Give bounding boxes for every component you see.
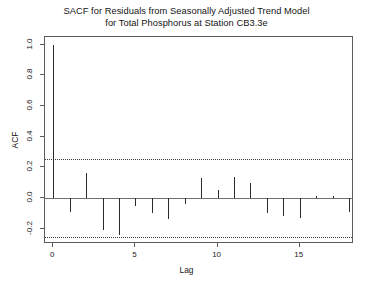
x-axis-tick [134,243,135,247]
y-axis-tick-label-text: 0.6 [21,99,39,110]
acf-spike [250,183,251,198]
x-axis-tick [299,243,300,247]
y-axis-tick-label-text: -0.2 [21,221,39,235]
plot-panel [44,36,353,243]
y-axis-tick-label-text: 0.2 [21,161,39,172]
chart-title-line-2: for Total Phosphorus at Station CB3.3e [0,18,373,30]
y-axis-tick-label-text: 0.0 [21,191,39,202]
y-axis-tick-label-text: 1.0 [21,38,39,49]
acf-spike [218,190,219,198]
y-axis-tick-label: 0.0 [23,188,37,206]
chart-title: SACF for Residuals from Seasonally Adjus… [0,6,373,29]
acf-spike [349,198,350,212]
x-axis-title: Lag [0,265,373,275]
x-axis-tick-label: 15 [294,250,303,259]
acf-chart-figure: SACF for Residuals from Seasonally Adjus… [0,0,373,288]
x-axis-tick-label: 10 [212,250,221,259]
y-axis-tick-label: 0.8 [23,65,37,83]
acf-spike [86,173,87,198]
y-axis-tick-label: 1.0 [23,35,37,53]
acf-spike [53,45,54,198]
y-axis-tick-label: -0.2 [23,219,37,237]
acf-spike [300,198,301,218]
acf-spike [119,198,120,235]
acf-spike [103,198,104,230]
zero-reference-line [45,198,352,199]
acf-spike [316,196,317,198]
acf-spike [333,196,334,198]
x-axis-tick [217,243,218,247]
acf-spike [135,198,136,206]
x-axis-tick [52,243,53,247]
chart-title-line-1: SACF for Residuals from Seasonally Adjus… [0,6,373,18]
acf-spike [168,198,169,219]
acf-spike [283,198,284,216]
y-axis-tick-label: 0.6 [23,96,37,114]
acf-spike [201,178,202,198]
confidence-band-line-upper [45,159,352,160]
acf-spike [152,198,153,213]
y-axis-tick-label-text: 0.4 [21,130,39,141]
acf-spike [267,198,268,213]
acf-spike [234,177,235,198]
acf-spike [70,198,71,212]
confidence-band-line-lower [45,237,352,238]
acf-spike [185,198,186,204]
y-axis-tick-label: 0.2 [23,157,37,175]
plot-area [45,37,352,242]
y-axis-tick-label: 0.4 [23,127,37,145]
x-axis-tick-label: 0 [50,250,54,259]
x-axis-tick-label: 5 [132,250,136,259]
y-axis-tick-label-text: 0.8 [21,69,39,80]
